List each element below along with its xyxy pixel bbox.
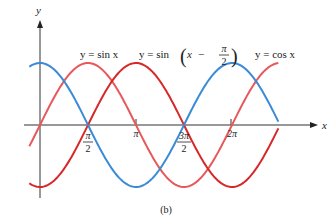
svg-text:x: x — [186, 48, 192, 60]
paren-left: ( — [180, 45, 187, 68]
tick-label-pi-2-den: 2 — [86, 143, 91, 154]
label-cos-x: y = cos x — [255, 48, 296, 60]
x-axis-label: x — [321, 119, 327, 131]
tick-label-3pi-2-num: 3π — [178, 130, 190, 141]
tick-label-2pi: 2π — [227, 128, 238, 139]
svg-text:y = sin: y = sin — [139, 48, 170, 60]
svg-text:2: 2 — [222, 56, 227, 67]
label-sin-x: y = sin x — [80, 48, 119, 60]
svg-text:−: − — [198, 48, 204, 60]
paren-right: ) — [231, 45, 238, 68]
y-axis-label: y — [35, 4, 41, 16]
caption: (b) — [160, 204, 172, 216]
label-sin-shift: y = sin ( x − π 2 ) — [139, 43, 238, 68]
chart: y x π 2 π 3π 2 2π y = sin x y = sin ( x … — [0, 0, 332, 220]
y-axis-arrow-icon — [37, 20, 43, 28]
svg-text:π: π — [221, 43, 227, 54]
x-axis-arrow-icon — [310, 122, 318, 128]
tick-label-3pi-2-den: 2 — [182, 143, 187, 154]
